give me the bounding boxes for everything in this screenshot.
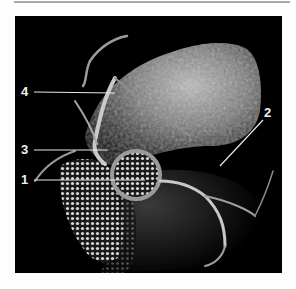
ct-render-graphic [15,16,282,273]
annotation-label-2: 2 [264,106,271,119]
leader-line-4 [34,92,115,93]
ct-image-panel: 4 3 1 2 [15,16,282,273]
top-rule-divider [14,1,290,3]
annotation-label-1: 1 [21,173,28,186]
central-vessel-cross-section [112,151,160,199]
annotation-label-4: 4 [21,85,28,98]
annotation-label-3: 3 [21,143,28,156]
